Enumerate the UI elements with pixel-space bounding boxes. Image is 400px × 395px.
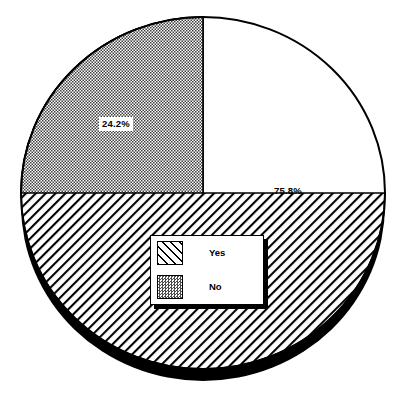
chart-legend: Yes No [150,235,264,305]
pie-chart-graphic [0,0,400,395]
legend-label-yes: Yes [209,247,225,258]
legend-item-no: No [151,270,263,305]
pie-slice-no [21,17,203,193]
legend-swatch-no-icon [157,275,183,299]
slice-label-yes: 75.8% [274,185,302,197]
legend-swatch-yes-icon [157,241,183,265]
legend-item-yes: Yes [151,236,263,271]
pie-chart: 24.2% 75.8% Yes No [0,0,400,395]
legend-label-no: No [209,281,222,292]
slice-label-no: 24.2% [99,117,133,131]
pie-face [21,17,385,369]
